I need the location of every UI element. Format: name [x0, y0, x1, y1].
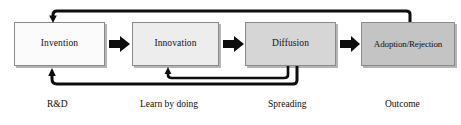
stage-box-adoption-rejection: Adoption/Rejection	[361, 22, 455, 66]
stage-label-diffusion: Diffusion	[272, 39, 309, 49]
stage-label-innovation: Innovation	[154, 39, 196, 49]
caption-rnd: R&D	[47, 100, 68, 110]
feedback-diffusion-to-innovation-icon	[165, 66, 288, 78]
stage-label-adoption-rejection: Adoption/Rejection	[374, 40, 442, 49]
arrow-innovation-to-diffusion-icon	[223, 36, 244, 52]
stage-box-diffusion: Diffusion	[245, 22, 336, 66]
caption-spreading: Spreading	[268, 100, 307, 110]
stage-box-innovation: Innovation	[132, 22, 219, 66]
feedback-diffusion-to-invention-icon	[48, 66, 297, 84]
caption-outcome: Outcome	[385, 100, 420, 110]
innovation-process-diagram: Invention Innovation Diffusion Adoption/…	[0, 0, 461, 125]
arrow-diffusion-to-adoption-icon	[340, 36, 360, 52]
arrow-invention-to-innovation-icon	[109, 36, 130, 52]
caption-learn-by-doing: Learn by doing	[140, 100, 198, 110]
stage-label-invention: Invention	[41, 39, 78, 49]
stage-box-invention: Invention	[14, 22, 105, 66]
